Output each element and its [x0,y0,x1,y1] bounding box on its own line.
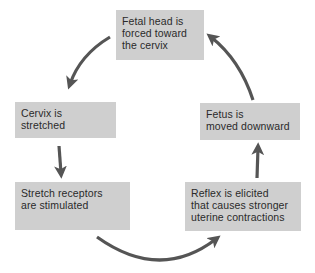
arrow-cervix-to-stretch [59,146,61,173]
node-text-line: stretched [21,119,110,131]
node-text-line: uterine contractions [191,211,295,223]
node-text-line: Stretch receptors [21,187,124,199]
arrow-fetus-to-fetal-head [211,37,253,100]
node-text-line: Fetus is [206,108,294,120]
node-text-line: forced toward [122,27,198,39]
node-text-line: that causes stronger [191,199,295,211]
node-text-line: Fetal head is [122,15,198,27]
arrow-fetal-head-to-cervix [70,37,110,84]
node-text-line: the cervix [122,39,198,51]
node-text-line: moved downward [206,120,294,132]
node-cervix: Cervix is stretched [15,102,116,138]
node-text-line: are stimulated [21,199,124,211]
node-fetal-head: Fetal head is forced toward the cervix [116,10,204,60]
node-text-line: Reflex is elicited [191,187,295,199]
node-stretch-receptors: Stretch receptors are stimulated [15,182,130,230]
arrow-reflex-to-fetus [257,148,258,178]
node-fetus: Fetus is moved downward [200,103,300,140]
arrow-stretch-to-reflex [97,237,216,260]
node-text-line: Cervix is [21,107,110,119]
node-reflex: Reflex is elicited that causes stronger … [185,182,301,231]
